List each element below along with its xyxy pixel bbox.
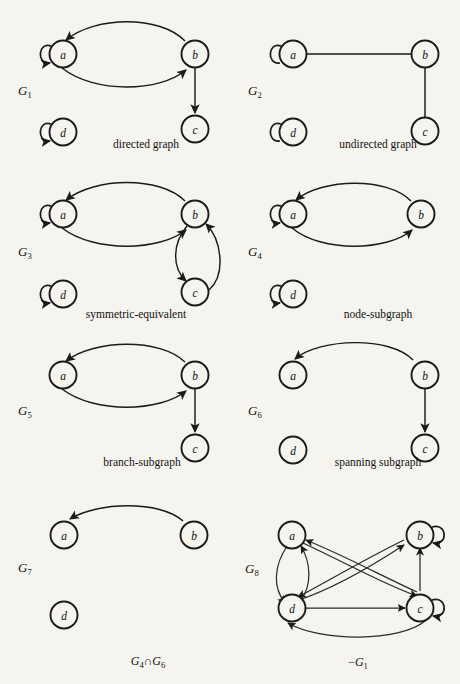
edge-a-to-b	[62, 68, 186, 87]
graph-figure-sheet: a b c d G1 directed graph a b c d G2 und…	[0, 0, 460, 684]
graph-label-G4: G4	[248, 244, 262, 261]
node-a-label: a	[290, 49, 296, 61]
figure-G8: a b c d G8 −G1	[245, 522, 444, 672]
figure-root: a b c d G1 directed graph a b c d G2 und…	[0, 0, 460, 684]
node-d-label: d	[60, 127, 66, 139]
node-c-label: c	[192, 443, 197, 455]
bottom-caption-G7: G4∩G6	[131, 654, 166, 670]
edge-a-to-b	[62, 228, 186, 246]
node-c-label: c	[422, 126, 427, 138]
graph-label-G1: G1	[18, 83, 32, 100]
edge-c-to-d	[288, 621, 425, 637]
graph-label-G8: G8	[245, 561, 259, 578]
node-a-label: a	[60, 370, 66, 382]
caption-G5: branch-subgraph	[103, 456, 181, 469]
edge-b-to-a	[66, 183, 185, 202]
figure-G6: a b c d G6 spanning subgraph	[248, 343, 439, 469]
graph-label-G2: G2	[248, 83, 262, 100]
edge-a-to-d	[276, 545, 288, 603]
figure-G1: a b c d G1 directed graph	[18, 22, 209, 151]
edge-b-to-a	[66, 22, 185, 41]
node-b-label: b	[191, 530, 197, 542]
node-a-label: a	[290, 370, 296, 382]
node-d-label: d	[60, 289, 66, 301]
node-a-label: a	[60, 49, 66, 61]
figure-G5: a b c G5 branch-subgraph	[18, 344, 209, 469]
node-a-label: a	[61, 530, 67, 542]
figure-G3: a b c d G3 symmetric-equivalent	[18, 183, 220, 322]
edge-b-to-a	[296, 183, 411, 201]
edge-b-to-c	[176, 226, 187, 281]
node-d-label: d	[290, 289, 296, 301]
caption-G6: spanning subgraph	[335, 456, 422, 469]
graph-label-G7: G7	[18, 560, 32, 577]
edge-b-to-a	[295, 343, 413, 360]
edge-d-to-b	[296, 545, 404, 601]
caption-G3: symmetric-equivalent	[86, 308, 187, 321]
node-c-label: c	[417, 603, 422, 615]
figure-G2: a b c d G2 undirected graph	[248, 41, 439, 152]
edge-a-to-b	[292, 228, 412, 246]
graph-label-G6: G6	[248, 403, 262, 420]
node-d-label: d	[61, 610, 67, 622]
node-b-label: b	[192, 209, 198, 221]
node-a-label: a	[289, 530, 295, 542]
node-c-label: c	[422, 443, 427, 455]
graph-label-G3: G3	[18, 244, 32, 261]
node-b-label: b	[417, 530, 423, 542]
node-d-label: d	[290, 445, 296, 457]
graph-label-G5: G5	[18, 403, 32, 420]
node-b-label: b	[192, 370, 198, 382]
caption-G4: node-subgraph	[344, 308, 413, 321]
edge-b-to-a	[70, 506, 183, 521]
caption-G2: undirected graph	[339, 138, 417, 151]
node-d-label: d	[289, 603, 295, 615]
node-b-label: b	[418, 209, 424, 221]
node-c-label: c	[192, 287, 197, 299]
figure-G7: a b d G7 G4∩G6	[18, 506, 208, 670]
node-d-label: d	[290, 127, 296, 139]
node-b-label: b	[422, 49, 428, 61]
caption-G1: directed graph	[113, 138, 179, 151]
edge-b-to-a	[66, 344, 185, 362]
node-b-label: b	[422, 370, 428, 382]
node-a-label: a	[290, 209, 296, 221]
node-c-label: c	[192, 124, 197, 136]
edge-a-to-c	[303, 543, 417, 596]
figure-G4: a b d G4 node-subgraph	[248, 183, 435, 321]
node-b-label: b	[192, 49, 198, 61]
edge-a-to-b	[62, 389, 186, 407]
edge-c-to-b	[206, 224, 220, 290]
node-a-label: a	[60, 209, 66, 221]
bottom-caption-G8: −G1	[348, 655, 368, 671]
